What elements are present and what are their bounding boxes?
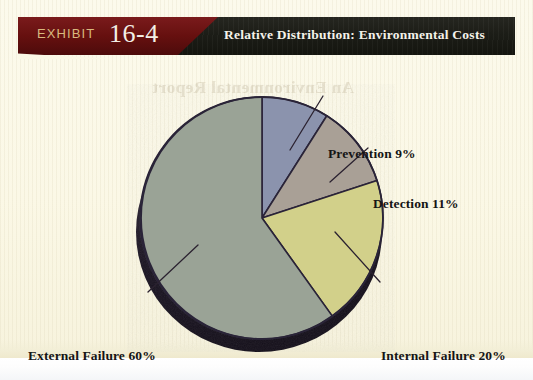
pie-label-internal-failure: Internal Failure 20% [381, 348, 506, 364]
pie-label-external-failure: External Failure 60% [28, 348, 156, 364]
pie-label-prevention: Prevention 9% [328, 146, 416, 162]
exhibit-page: An Environmental Report EXHIBIT 16-4 Rel… [0, 0, 533, 380]
exhibit-title: Relative Distribution: Environmental Cos… [224, 27, 485, 43]
pie-label-detection: Detection 11% [373, 196, 459, 212]
pie-chart: Prevention 9% Detection 11% Internal Fai… [0, 60, 533, 358]
exhibit-number: 16-4 [109, 19, 159, 49]
exhibit-label: EXHIBIT [37, 26, 95, 41]
exhibit-header: EXHIBIT 16-4 Relative Distribution: Envi… [18, 17, 515, 55]
